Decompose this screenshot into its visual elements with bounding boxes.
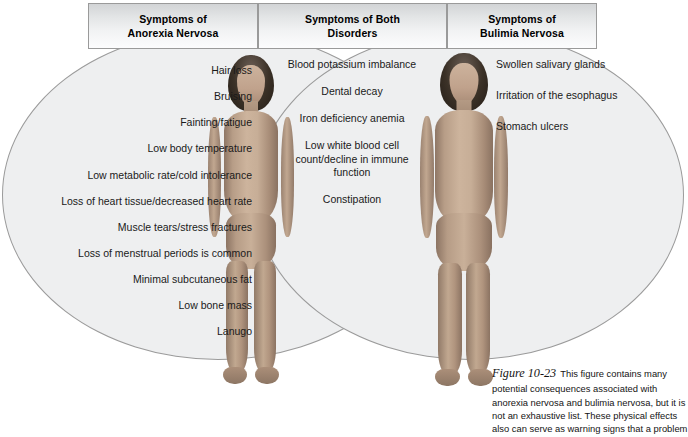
symptom-item: Blood potassium imbalance [262,58,442,71]
figure-number-label: Figure 10-23 [492,366,556,380]
right-foot-shape [468,369,493,386]
both-disorders-symptom-list: Blood potassium imbalance Dental decay I… [262,58,442,220]
header-both-disorders: Symptoms of Both Disorders [258,3,447,49]
right-leg-shape [254,261,276,373]
symptom-item: Low bone mass [0,299,252,312]
symptom-item: Loss of heart tissue/decreased heart rat… [0,195,252,208]
anorexia-symptom-list: Hair loss Bruising Fainting/fatigue Low … [0,64,252,351]
header-line-1: Symptoms of [488,13,556,25]
symptom-item: Low white blood cell count/decline in im… [289,139,415,178]
header-line-2: Anorexia Nervosa [128,27,219,39]
right-foot-shape [255,367,279,384]
header-line-1: Symptoms of [139,13,207,25]
header-line-2: Bulimia Nervosa [480,27,564,39]
symptom-item: Lanugo [0,325,252,338]
symptom-item: Bruising [0,90,252,103]
header-anorexia-nervosa: Symptoms of Anorexia Nervosa [88,3,258,49]
symptom-item: Hair loss [0,64,252,77]
figure-caption: Figure 10-23This figure contains many po… [492,365,688,437]
symptom-item: Loss of menstrual periods is common [0,247,252,260]
symptom-item: Muscle tears/stress fractures [0,221,252,234]
header-line-1: Symptoms of Both [305,13,400,25]
symptom-item: Stomach ulcers [496,120,682,133]
symptom-item: Dental decay [262,85,442,98]
eating-disorders-venn-figure: Hair loss Bruising Fainting/fatigue Low … [0,0,688,437]
symptom-item: Low metabolic rate/cold intolerance [0,169,252,182]
left-leg-shape [438,263,462,375]
left-foot-shape [223,367,247,384]
bulimia-symptom-list: Swollen salivary glands Irritation of th… [496,58,682,151]
right-leg-shape [466,263,490,375]
left-foot-shape [435,369,460,386]
symptom-item: Fainting/fatigue [0,116,252,129]
symptom-item: Irritation of the esophagus [496,89,682,102]
header-line-2: Disorders [328,27,378,39]
symptom-item: Minimal subcutaneous fat [0,273,252,286]
symptom-item: Iron deficiency anemia [262,112,442,125]
symptom-item: Swollen salivary glands [496,58,682,71]
symptom-item: Low body temperature [0,142,252,155]
torso-shape [435,110,493,222]
header-bulimia-nervosa: Symptoms of Bulimia Nervosa [447,3,597,49]
symptom-item: Constipation [262,193,442,206]
